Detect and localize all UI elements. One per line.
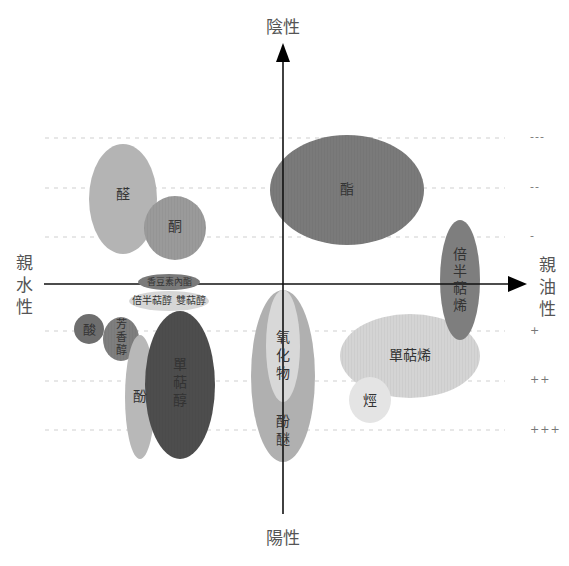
right-axis-label: 親油性	[537, 254, 557, 320]
left-axis-label: 親水性	[14, 252, 34, 318]
right-arrow-icon	[508, 276, 527, 292]
label-aromatic-alcohol: 芳香醇	[114, 318, 128, 357]
tick-label: +++	[530, 423, 561, 436]
label-phenol: 酚	[130, 388, 150, 405]
label-phenol-ether: 酚醚	[274, 412, 292, 448]
label-monoterpenol: 單萜醇	[171, 355, 189, 409]
polarity-chart	[0, 0, 569, 566]
tick-label: --	[530, 180, 540, 193]
label-hydrocarbon: 烴	[360, 392, 380, 409]
label-ester: 酯	[337, 181, 357, 198]
label-sesqui-diterpenol: 倍半萜醇 雙萜醇	[129, 295, 209, 307]
label-sesquiterpene: 倍半萜烯	[451, 246, 469, 314]
label-ketone: 酮	[165, 218, 185, 235]
tick-label: -	[530, 229, 535, 242]
bottom-axis-label: 陽性	[258, 527, 308, 549]
up-arrow-icon	[276, 43, 290, 62]
label-coumarin: 香豆素內酯	[139, 276, 199, 288]
tick-label: +	[530, 324, 540, 337]
tick-label: ---	[530, 130, 545, 143]
label-acid: 酸	[80, 321, 98, 338]
label-aldehyde: 醛	[113, 186, 133, 203]
tick-label: ++	[530, 373, 550, 386]
top-axis-label: 陰性	[258, 16, 308, 38]
label-monoterpene: 單萜烯	[370, 347, 450, 364]
label-oxide: 氧化物	[274, 328, 292, 382]
